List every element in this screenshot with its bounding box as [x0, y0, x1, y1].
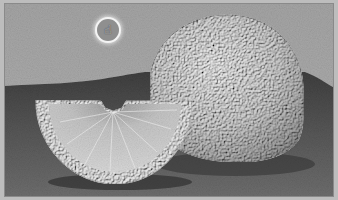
cursor-highlight: ☝ [97, 19, 119, 41]
photo-canvas [5, 4, 334, 197]
image-frame: ☝ [0, 0, 338, 200]
orange-photo[interactable]: ☝ [4, 3, 334, 197]
hand-pointer-icon: ☝ [97, 19, 119, 41]
